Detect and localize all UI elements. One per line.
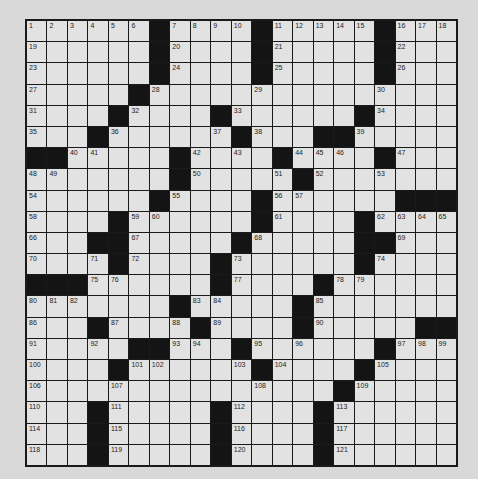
grid-cell[interactable] <box>273 233 292 253</box>
grid-cell[interactable] <box>416 402 435 422</box>
grid-cell[interactable]: 103 <box>232 360 251 380</box>
grid-cell[interactable] <box>416 296 435 316</box>
grid-cell[interactable] <box>334 360 353 380</box>
grid-cell[interactable] <box>170 381 189 401</box>
grid-cell[interactable]: 29 <box>252 85 271 105</box>
grid-cell[interactable] <box>191 233 210 253</box>
grid-cell[interactable] <box>191 381 210 401</box>
grid-cell[interactable] <box>170 106 189 126</box>
grid-cell[interactable]: 71 <box>88 254 107 274</box>
grid-cell[interactable]: 93 <box>170 339 189 359</box>
grid-cell[interactable] <box>150 106 169 126</box>
grid-cell[interactable] <box>109 63 128 83</box>
grid-cell[interactable] <box>109 339 128 359</box>
grid-cell[interactable]: 74 <box>375 254 394 274</box>
grid-cell[interactable] <box>211 212 230 232</box>
grid-cell[interactable]: 75 <box>88 275 107 295</box>
grid-cell[interactable] <box>47 42 66 62</box>
grid-cell[interactable] <box>170 85 189 105</box>
grid-cell[interactable] <box>375 445 394 465</box>
grid-cell[interactable] <box>129 127 148 147</box>
grid-cell[interactable] <box>334 191 353 211</box>
grid-cell[interactable]: 31 <box>27 106 46 126</box>
grid-cell[interactable]: 20 <box>170 42 189 62</box>
grid-cell[interactable]: 61 <box>273 212 292 232</box>
grid-cell[interactable] <box>150 169 169 189</box>
grid-cell[interactable] <box>150 233 169 253</box>
grid-cell[interactable] <box>375 424 394 444</box>
grid-cell[interactable] <box>252 169 271 189</box>
grid-cell[interactable] <box>293 424 312 444</box>
grid-cell[interactable] <box>416 381 435 401</box>
grid-cell[interactable] <box>88 63 107 83</box>
grid-cell[interactable] <box>355 169 374 189</box>
grid-cell[interactable]: 110 <box>27 402 46 422</box>
grid-cell[interactable] <box>68 360 87 380</box>
grid-cell[interactable] <box>355 318 374 338</box>
grid-cell[interactable]: 28 <box>150 85 169 105</box>
grid-cell[interactable]: 3 <box>68 21 87 41</box>
grid-cell[interactable] <box>334 212 353 232</box>
grid-cell[interactable] <box>47 318 66 338</box>
grid-cell[interactable] <box>396 296 415 316</box>
grid-cell[interactable] <box>273 402 292 422</box>
grid-cell[interactable]: 65 <box>437 212 456 232</box>
grid-cell[interactable]: 102 <box>150 360 169 380</box>
grid-cell[interactable] <box>68 233 87 253</box>
grid-cell[interactable] <box>191 212 210 232</box>
grid-cell[interactable] <box>47 254 66 274</box>
grid-cell[interactable]: 96 <box>293 339 312 359</box>
grid-cell[interactable] <box>170 127 189 147</box>
grid-cell[interactable]: 118 <box>27 445 46 465</box>
grid-cell[interactable] <box>334 296 353 316</box>
grid-cell[interactable] <box>170 424 189 444</box>
grid-cell[interactable]: 59 <box>129 212 148 232</box>
grid-cell[interactable]: 63 <box>396 212 415 232</box>
grid-cell[interactable]: 40 <box>68 148 87 168</box>
grid-cell[interactable]: 2 <box>47 21 66 41</box>
grid-cell[interactable] <box>47 339 66 359</box>
grid-cell[interactable] <box>191 127 210 147</box>
grid-cell[interactable] <box>396 318 415 338</box>
grid-cell[interactable]: 104 <box>273 360 292 380</box>
grid-cell[interactable]: 23 <box>27 63 46 83</box>
grid-cell[interactable] <box>273 318 292 338</box>
grid-cell[interactable] <box>355 191 374 211</box>
grid-cell[interactable] <box>273 296 292 316</box>
grid-cell[interactable]: 27 <box>27 85 46 105</box>
grid-cell[interactable] <box>293 106 312 126</box>
grid-cell[interactable] <box>47 191 66 211</box>
grid-cell[interactable] <box>375 402 394 422</box>
grid-cell[interactable] <box>437 148 456 168</box>
grid-cell[interactable]: 48 <box>27 169 46 189</box>
grid-cell[interactable] <box>232 212 251 232</box>
grid-cell[interactable] <box>334 254 353 274</box>
grid-cell[interactable] <box>170 275 189 295</box>
grid-cell[interactable]: 11 <box>273 21 292 41</box>
grid-cell[interactable] <box>191 402 210 422</box>
grid-cell[interactable] <box>437 424 456 444</box>
grid-cell[interactable] <box>129 296 148 316</box>
grid-cell[interactable] <box>273 339 292 359</box>
grid-cell[interactable] <box>150 381 169 401</box>
grid-cell[interactable] <box>170 254 189 274</box>
grid-cell[interactable]: 83 <box>191 296 210 316</box>
grid-cell[interactable]: 111 <box>109 402 128 422</box>
grid-cell[interactable] <box>150 318 169 338</box>
grid-cell[interactable]: 7 <box>170 21 189 41</box>
grid-cell[interactable] <box>252 275 271 295</box>
grid-cell[interactable]: 121 <box>334 445 353 465</box>
grid-cell[interactable]: 22 <box>396 42 415 62</box>
grid-cell[interactable] <box>129 424 148 444</box>
grid-cell[interactable]: 60 <box>150 212 169 232</box>
grid-cell[interactable] <box>68 381 87 401</box>
grid-cell[interactable]: 45 <box>314 148 333 168</box>
grid-cell[interactable] <box>293 360 312 380</box>
grid-cell[interactable] <box>68 85 87 105</box>
grid-cell[interactable] <box>355 402 374 422</box>
grid-cell[interactable]: 55 <box>170 191 189 211</box>
grid-cell[interactable] <box>170 445 189 465</box>
grid-cell[interactable]: 90 <box>314 318 333 338</box>
grid-cell[interactable]: 43 <box>232 148 251 168</box>
grid-cell[interactable] <box>416 275 435 295</box>
